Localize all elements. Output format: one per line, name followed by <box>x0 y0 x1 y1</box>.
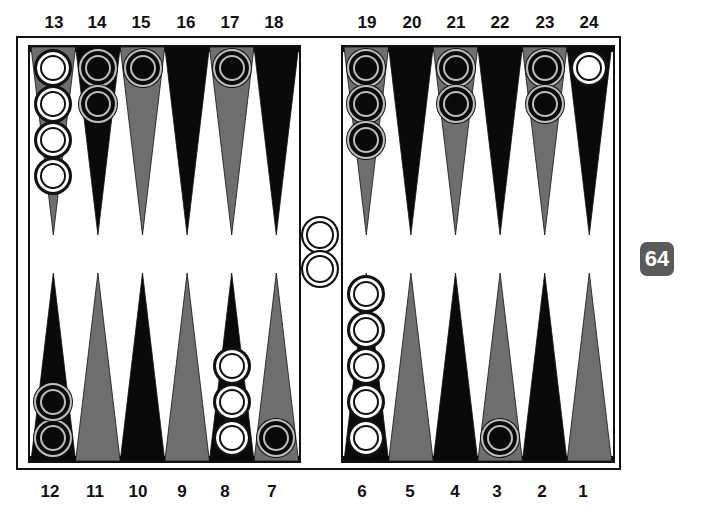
point-label-9: 9 <box>160 482 204 502</box>
point-label-11: 11 <box>73 482 117 502</box>
point-11[interactable] <box>76 273 121 461</box>
point-label-6: 6 <box>340 482 384 502</box>
point-label-8: 8 <box>203 482 247 502</box>
point-label-15: 15 <box>119 13 163 33</box>
point-label-10: 10 <box>116 482 160 502</box>
point-label-1: 1 <box>561 482 605 502</box>
point-label-5: 5 <box>388 482 432 502</box>
point-label-24: 24 <box>567 13 611 33</box>
checker-black-point-15[interactable] <box>124 49 162 87</box>
checker-black-point-14[interactable] <box>79 49 117 87</box>
point-2[interactable] <box>522 273 567 461</box>
point-1[interactable] <box>567 273 612 461</box>
point-10[interactable] <box>120 273 165 461</box>
doubling-cube[interactable]: 64 <box>640 242 674 276</box>
point-label-23: 23 <box>523 13 567 33</box>
point-9[interactable] <box>165 273 210 461</box>
point-18[interactable] <box>254 47 299 235</box>
checker-black-point-23[interactable] <box>526 85 564 123</box>
point-label-18: 18 <box>252 13 296 33</box>
checker-white-point-8[interactable] <box>213 347 251 385</box>
point-label-21: 21 <box>434 13 478 33</box>
point-16[interactable] <box>165 47 210 235</box>
point-20[interactable] <box>389 47 434 235</box>
point-22[interactable] <box>478 47 523 235</box>
checker-black-point-14[interactable] <box>79 85 117 123</box>
point-label-7: 7 <box>250 482 294 502</box>
point-label-3: 3 <box>475 482 519 502</box>
point-5[interactable] <box>389 273 434 461</box>
point-label-13: 13 <box>32 13 76 33</box>
point-label-16: 16 <box>164 13 208 33</box>
point-label-12: 12 <box>28 482 72 502</box>
checker-black-point-23[interactable] <box>526 49 564 87</box>
point-label-22: 22 <box>478 13 522 33</box>
checker-black-point-3[interactable] <box>481 419 519 457</box>
point-label-14: 14 <box>75 13 119 33</box>
checker-white-point-8[interactable] <box>213 419 251 457</box>
checker-black-point-21[interactable] <box>437 49 475 87</box>
point-label-19: 19 <box>345 13 389 33</box>
checker-white-bar[interactable] <box>301 250 339 288</box>
point-label-17: 17 <box>208 13 252 33</box>
point-label-2: 2 <box>520 482 564 502</box>
point-label-4: 4 <box>433 482 477 502</box>
checker-white-bar[interactable] <box>301 216 339 254</box>
checker-white-point-8[interactable] <box>213 383 251 421</box>
point-4[interactable] <box>433 273 478 461</box>
checker-black-point-17[interactable] <box>213 49 251 87</box>
point-label-20: 20 <box>390 13 434 33</box>
checker-black-point-21[interactable] <box>437 85 475 123</box>
